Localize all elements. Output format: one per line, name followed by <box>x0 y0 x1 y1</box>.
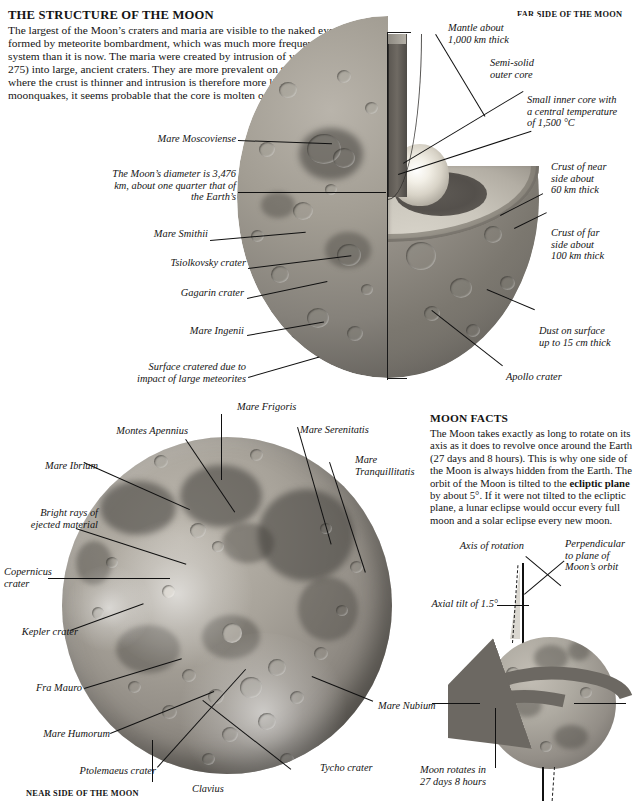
crater <box>202 753 215 765</box>
label-mare-tranquillitatis: Mare Tranquillitatis <box>355 454 433 477</box>
crater <box>250 449 263 461</box>
crater <box>361 284 373 295</box>
label-moon-diameter: The Moon’s diameter is 3,476 km, about o… <box>58 168 236 203</box>
mare-tranquillitatis-patch <box>258 489 354 581</box>
crater <box>279 82 297 98</box>
moon-facts-text-b: by about 5°. If it were not tilted to th… <box>430 489 626 526</box>
orbit-plane-line-right <box>574 703 626 704</box>
label-montes-apennius: Montes Apennius <box>78 425 188 437</box>
crater <box>182 669 196 682</box>
label-apollo-crater: Apollo crater <box>506 371 612 383</box>
crater <box>325 184 337 195</box>
crater <box>280 753 294 766</box>
cut-bottom-edge <box>387 378 407 379</box>
crater <box>466 324 480 337</box>
crater <box>222 727 238 742</box>
moon-facts-heading: MOON FACTS <box>430 412 508 424</box>
crater <box>484 226 502 243</box>
crater <box>259 142 275 157</box>
label-bright-rays: Bright rays of ejected material <box>4 507 98 530</box>
crater <box>307 308 329 328</box>
crater <box>271 266 289 283</box>
label-mare-serenitatis: Mare Serenitatis <box>300 424 412 436</box>
crater <box>347 326 363 341</box>
near-side-disc <box>62 437 392 774</box>
leader-line-rotation <box>495 708 496 768</box>
label-gagarin-crater: Gagarin crater <box>130 287 244 299</box>
crater <box>450 278 472 298</box>
label-tycho-crater: Tycho crater <box>320 762 412 774</box>
tycho-crater-spot <box>222 623 242 643</box>
crater <box>293 202 313 220</box>
label-mare-humorum: Mare Humorum <box>6 728 110 740</box>
label-perpendicular: Perpendicular to plane of Moon’s orbit <box>565 538 640 573</box>
label-outer-core: Semi-solid outer core <box>490 57 610 80</box>
label-moon-rotates: Moon rotates in 27 days 8 hours <box>420 764 510 787</box>
axial-tilt-diagram <box>448 545 638 795</box>
label-fra-mauro: Fra Mauro <box>10 682 82 694</box>
crater <box>365 102 378 114</box>
moon-diagram-page: THE STRUCTURE OF THE MOON The largest of… <box>0 0 640 811</box>
leader-line-frigoris <box>221 414 222 480</box>
label-axis-of-rotation: Axis of rotation <box>424 540 524 552</box>
page-title: THE STRUCTURE OF THE MOON <box>8 8 214 23</box>
label-mare-moscoviense: Mare Moscoviense <box>96 133 236 145</box>
label-surface-cratered: Surface cratered due to impact of large … <box>74 361 246 384</box>
crater <box>333 148 355 168</box>
label-tsiolkovsky-crater: Tsiolkovsky crater <box>110 257 246 269</box>
crater <box>336 605 348 616</box>
rotation-arrow-band <box>448 545 638 795</box>
orbit-plane-line-left <box>432 703 480 704</box>
label-copernicus-crater: Copernicus crater <box>4 566 92 589</box>
label-crust-near: Crust of near side about 60 km thick <box>551 161 640 196</box>
crater <box>268 659 286 676</box>
crater <box>106 557 118 568</box>
crater <box>500 276 515 290</box>
crater <box>337 70 351 83</box>
label-kepler-crater: Kepler crater <box>2 626 78 638</box>
perpendicular-line-lower <box>542 767 544 801</box>
label-mare-ibrium: Mare Ibrium <box>6 460 98 472</box>
label-mare-ingenii: Mare Ingenii <box>150 325 244 337</box>
mare-patch <box>261 192 295 218</box>
crater <box>190 523 206 538</box>
crater <box>240 677 262 698</box>
crater <box>406 242 436 270</box>
crater <box>283 336 297 349</box>
cut-axis-edge <box>387 32 388 380</box>
cut-top-edge <box>387 32 411 33</box>
moon-facts-bold: ecliptic plane <box>570 477 630 489</box>
crater <box>212 541 224 552</box>
moon-facts-text: The Moon takes exactly as long to rotate… <box>430 427 635 526</box>
near-side-moon-illustration <box>62 437 392 774</box>
crater <box>258 713 276 730</box>
label-inner-core: Small inner core with a central temperat… <box>527 94 640 129</box>
label-clavius: Clavius <box>192 783 262 795</box>
label-mare-frigoris: Mare Frigoris <box>237 401 347 413</box>
copernicus-crater-spot <box>162 585 175 598</box>
leader-line-diameter <box>238 192 386 193</box>
label-ptolemaeus-crater: Ptolemaeus crater <box>50 765 156 777</box>
crater <box>314 647 328 660</box>
label-crust-far: Crust of far side about 100 km thick <box>551 227 640 262</box>
label-mare-smithii: Mare Smithii <box>100 228 208 240</box>
label-dust: Dust on surface up to 15 cm thick <box>539 325 640 348</box>
mare-patch <box>298 577 358 641</box>
caption-near-side: NEAR SIDE OF THE MOON <box>26 789 139 798</box>
crater <box>154 455 168 468</box>
crater <box>128 681 141 693</box>
label-axial-tilt: Axial tilt of 1.5° <box>414 598 498 610</box>
leader-line-axial-tilt <box>497 605 529 606</box>
crater <box>290 691 304 704</box>
label-mantle: Mantle about 1,000 km thick <box>448 22 568 45</box>
